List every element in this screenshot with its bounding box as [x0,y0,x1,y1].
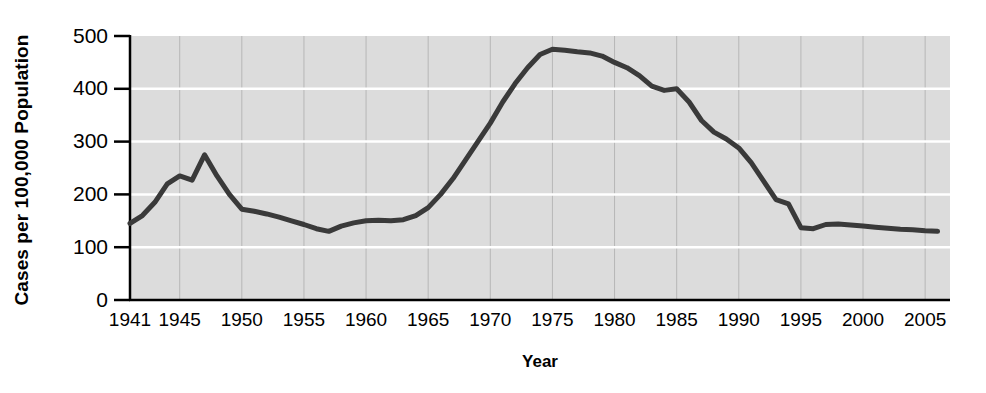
x-tick-label: 1965 [407,309,449,330]
plot-area-background [130,36,950,300]
y-tick-label: 300 [73,129,108,152]
plot-background-group [130,36,950,300]
y-tick-label: 400 [73,76,108,99]
x-tick-label: 1995 [780,309,822,330]
y-tick-label: 200 [73,182,108,205]
x-tick-label: 2000 [842,309,884,330]
y-tick-labels-group: 0100200300400500 [73,24,108,311]
y-tick-marks-group [114,36,130,300]
x-tick-label: 1980 [593,309,635,330]
chart-figure: Cases per 100,000 Population 01002003004… [0,0,986,393]
x-tick-label: 1950 [221,309,263,330]
x-tick-label: 1945 [159,309,201,330]
y-tick-label: 500 [73,24,108,47]
y-tick-label: 100 [73,235,108,258]
y-tick-label: 0 [96,288,108,311]
x-tick-label: 1941 [109,309,151,330]
x-tick-labels-group: 1941194519501955196019651970197519801985… [109,309,946,330]
x-axis-title: Year [130,352,950,372]
x-tick-label: 1975 [531,309,573,330]
x-tick-label: 2005 [904,309,946,330]
x-tick-label: 1960 [345,309,387,330]
x-tick-label: 1970 [469,309,511,330]
x-tick-label: 1990 [718,309,760,330]
x-tick-label: 1985 [656,309,698,330]
x-tick-label: 1955 [283,309,325,330]
chart-plot-svg: 0100200300400500 19411945195019551960196… [0,0,986,393]
